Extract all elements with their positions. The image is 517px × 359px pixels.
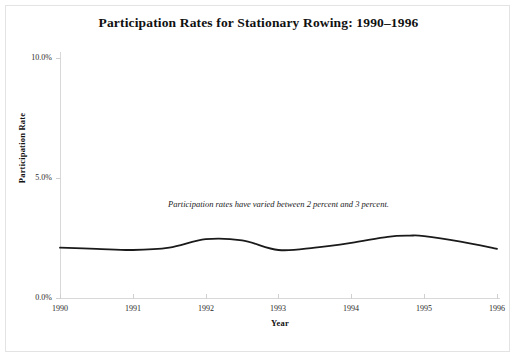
series-line-stationary-rowing	[60, 235, 497, 250]
x-tick-mark-1990	[60, 294, 61, 299]
x-axis-title: Year	[60, 318, 500, 328]
y-tick-label-10: 10.0%	[8, 54, 52, 62]
y-tick-mark-10	[56, 58, 61, 59]
x-tick-label-1991: 1991	[103, 305, 163, 313]
x-tick-label-1992: 1992	[176, 305, 236, 313]
x-tick-mark-1993	[278, 294, 279, 299]
x-tick-label-1990: 1990	[30, 305, 90, 313]
y-tick-label-5: 5.0%	[8, 174, 52, 182]
x-tick-mark-1996	[497, 294, 498, 299]
y-tick-label-0: 0.0%	[8, 294, 52, 302]
x-tick-label-1995: 1995	[394, 305, 454, 313]
chart-page: Participation Rates for Stationary Rowin…	[0, 0, 517, 359]
y-axis-line	[60, 52, 61, 299]
x-tick-label-1993: 1993	[248, 305, 308, 313]
x-tick-label-1996: 1996	[467, 305, 517, 313]
page-border	[5, 5, 510, 352]
chart-annotation: Participation rates have varied between …	[60, 199, 497, 209]
x-tick-mark-1991	[133, 294, 134, 299]
x-axis-line	[60, 298, 500, 299]
x-tick-label-1994: 1994	[321, 305, 381, 313]
y-axis-title: Participation Rate	[17, 88, 27, 208]
x-tick-mark-1994	[351, 294, 352, 299]
chart-title: Participation Rates for Stationary Rowin…	[0, 15, 517, 31]
x-tick-mark-1992	[206, 294, 207, 299]
x-tick-mark-1995	[424, 294, 425, 299]
y-tick-mark-5	[56, 178, 61, 179]
